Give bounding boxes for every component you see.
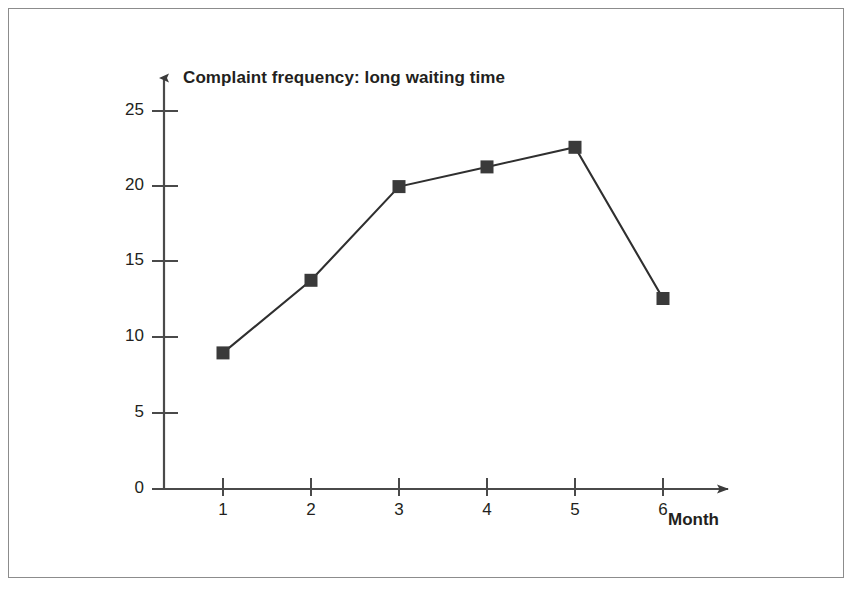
- data-point-markers: [217, 141, 670, 360]
- data-point-5: [569, 141, 582, 154]
- figure-page: Complaint frequency: long waiting time M…: [0, 0, 854, 590]
- x-axis-ticks: [223, 478, 663, 496]
- line-chart: Complaint frequency: long waiting time M…: [0, 0, 854, 590]
- data-point-6: [657, 292, 670, 305]
- data-point-4: [481, 160, 494, 173]
- data-point-2: [305, 274, 318, 287]
- plot-svg: [0, 0, 854, 590]
- data-point-1: [217, 346, 230, 359]
- data-series-line: [223, 147, 663, 353]
- data-point-3: [393, 180, 406, 193]
